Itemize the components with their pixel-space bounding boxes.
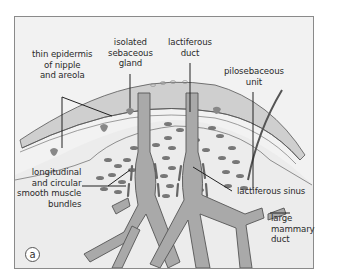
label-thin-epidermis: thin epidermis of nipple and areola: [32, 49, 92, 81]
label-line: sebaceous: [108, 48, 153, 59]
label-line: duct: [168, 48, 212, 59]
label-line: and circular: [17, 178, 81, 189]
label-line: lactiferous: [168, 37, 212, 48]
label-smooth-muscle: longitudinal and circular smooth muscle …: [17, 167, 81, 209]
label-sebaceous-gland: isolated sebaceous gland: [108, 37, 153, 69]
label-large-mammary-duct: large mammary duct: [271, 213, 315, 245]
label-line: mammary: [271, 224, 315, 235]
label-lactiferous-duct: lactiferous duct: [168, 37, 212, 58]
label-line: gland: [108, 58, 153, 69]
label-line: unit: [224, 77, 284, 88]
label-line: and areola: [32, 70, 92, 81]
label-line: duct: [271, 234, 315, 245]
panel-label-badge: a: [25, 247, 40, 262]
label-lactiferous-sinus: lactiferous sinus: [237, 186, 305, 197]
label-pilosebaceous-unit: pilosebaceous unit: [224, 66, 284, 87]
label-line: longitudinal: [17, 167, 81, 178]
label-line: pilosebaceous: [224, 66, 284, 77]
label-line: thin epidermis: [32, 49, 92, 60]
label-line: bundles: [17, 199, 81, 210]
label-line: isolated: [108, 37, 153, 48]
label-line: large: [271, 213, 315, 224]
label-line: smooth muscle: [17, 188, 81, 199]
label-line: of nipple: [32, 60, 92, 71]
